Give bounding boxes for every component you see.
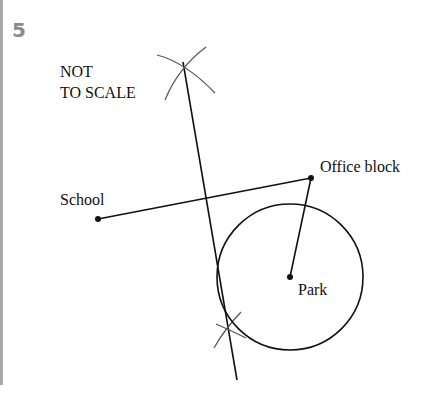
school-label: School (60, 191, 105, 208)
construction-arc-top-1 (157, 55, 215, 93)
not-to-scale-line2: TO SCALE (60, 84, 136, 101)
office-point (308, 175, 314, 181)
not-to-scale-line1: NOT (60, 63, 93, 80)
construction-diagram: NOT TO SCALE School Office block Park (0, 0, 445, 400)
park-label: Park (298, 281, 327, 298)
construction-arc-bottom-2 (214, 312, 241, 348)
park-point (287, 274, 293, 280)
office-label: Office block (320, 158, 400, 175)
bisector-line (183, 62, 237, 380)
office-park-line (290, 178, 311, 277)
school-point (95, 216, 101, 222)
